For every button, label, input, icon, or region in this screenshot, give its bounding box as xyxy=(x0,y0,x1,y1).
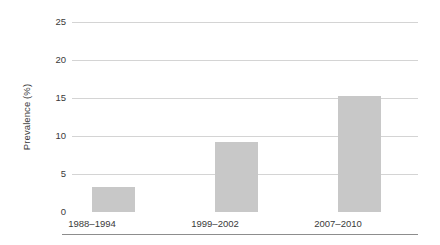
x-axis-line xyxy=(62,234,418,235)
x-axis-category-label: 1988–1994 xyxy=(62,218,122,229)
y-axis-tick-labels: 25 20 15 10 5 0 xyxy=(36,22,66,212)
bar xyxy=(92,187,135,212)
y-tick-label: 15 xyxy=(40,93,66,103)
x-axis-category-label: 2007–2010 xyxy=(308,218,368,229)
bar xyxy=(338,96,381,212)
y-tick-label: 25 xyxy=(40,17,66,27)
y-tick-label: 0 xyxy=(40,207,66,217)
y-axis-title: Prevalence (%) xyxy=(20,22,34,212)
y-tick-label: 5 xyxy=(40,169,66,179)
bar xyxy=(215,142,258,212)
bar-chart: Prevalence (%) 25 20 15 10 5 0 1988–1994… xyxy=(0,0,440,245)
y-tick-label: 20 xyxy=(40,55,66,65)
y-tick-label: 10 xyxy=(40,131,66,141)
x-axis-category-label: 1999–2002 xyxy=(185,218,245,229)
bars-layer xyxy=(72,22,418,212)
